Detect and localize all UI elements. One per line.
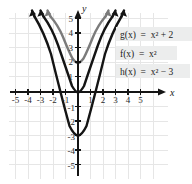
legend-item-g: g(x) = x² + 2 (116, 27, 192, 41)
coordinate-plane-svg: x y -5 -4 -3 -2 -1 1 2 3 4 5 5 4 3 2 1 -… (0, 0, 192, 184)
y-axis (75, 10, 82, 176)
y-tick-label: -4 (68, 146, 76, 156)
x-tick-label: -3 (37, 95, 45, 105)
x-tick-label: 1 (88, 95, 93, 105)
x-tick-label: -5 (12, 95, 20, 105)
x-tick-label: -4 (24, 95, 32, 105)
x-tick-label: 5 (138, 95, 143, 105)
y-tick-label: 1 (69, 72, 74, 82)
legend-label-g: g(x) = x² + 2 (120, 30, 173, 41)
y-tick-label: -1 (68, 103, 76, 113)
y-tick-label: 4 (69, 28, 74, 38)
graph-figure: x y -5 -4 -3 -2 -1 1 2 3 4 5 5 4 3 2 1 -… (0, 0, 192, 184)
y-tick-label: 3 (69, 43, 74, 53)
y-tick-label: 5 (69, 14, 74, 24)
legend-item-f: f(x) = x² (116, 46, 177, 60)
x-tick-label: 4 (126, 95, 131, 105)
y-tick-label: -5 (68, 161, 76, 171)
x-axis-label: x (169, 87, 175, 98)
x-tick-label: 3 (113, 95, 118, 105)
x-tick-label: -2 (49, 95, 57, 105)
legend-item-h: h(x) = x² − 3 (116, 64, 190, 78)
x-tick-label: 2 (101, 95, 106, 105)
y-tick-label: -3 (68, 132, 76, 142)
legend-label-h: h(x) = x² − 3 (120, 67, 173, 78)
legend-label-f: f(x) = x² (120, 49, 157, 60)
y-tick-label: -2 (68, 117, 76, 127)
legend: g(x) = x² + 2 f(x) = x² h(x) = x² − 3 (116, 27, 192, 78)
y-axis-label: y (81, 3, 87, 14)
y-tick-label: 2 (69, 57, 74, 67)
